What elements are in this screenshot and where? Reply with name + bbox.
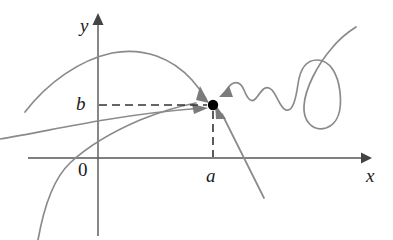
limit-diagram-figure: y x b a 0 bbox=[0, 0, 393, 240]
x-axis-label: x bbox=[366, 166, 374, 185]
point-x-value-label: a bbox=[206, 166, 216, 185]
y-axis-label: y bbox=[80, 16, 88, 35]
point-y-value-label: b bbox=[76, 94, 86, 113]
oscillating-curve bbox=[226, 27, 356, 129]
origin-label: 0 bbox=[78, 160, 88, 179]
lower-rising-curve bbox=[0, 108, 203, 139]
y-axis-arrowhead bbox=[93, 13, 104, 25]
diagram-canvas bbox=[0, 0, 393, 240]
x-axis-arrowhead bbox=[361, 153, 372, 164]
background-rising-curve bbox=[38, 103, 196, 240]
limit-point-dot bbox=[208, 100, 218, 110]
oscillating-curve-arrowhead bbox=[219, 86, 233, 97]
upper-arc-curve bbox=[25, 51, 206, 112]
straight-approach-line bbox=[222, 114, 264, 198]
